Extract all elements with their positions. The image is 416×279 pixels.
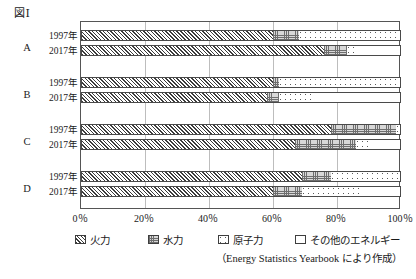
bar-row (81, 124, 401, 135)
bar-segment (273, 30, 299, 41)
bar-segment (356, 45, 401, 56)
x-axis-tick-label: 0％ (73, 210, 88, 225)
bar-segment (347, 45, 357, 56)
year-label: 2017年 (34, 43, 78, 57)
group-letter-a: A (20, 42, 34, 53)
bar-row (81, 45, 401, 56)
x-axis-tick-label: 80％ (326, 210, 346, 225)
bar-segment (324, 45, 346, 56)
bar-segment (81, 124, 331, 135)
year-label: 1997年 (34, 169, 78, 183)
bar-segment (299, 30, 401, 41)
x-axis-tick-label: 100％ (388, 210, 413, 225)
bar-segment (81, 171, 302, 182)
bar-segment (81, 77, 273, 88)
bar-segment (399, 124, 401, 135)
legend-label-hydro: 水力 (163, 232, 183, 247)
legend-label-thermal: 火力 (90, 232, 110, 247)
legend-swatch-thermal (75, 235, 86, 244)
figure-label: 図Ⅰ (14, 4, 30, 20)
figure-root: 図Ⅰ 1997年2017年1997年2017年1997年2017年1997年20… (0, 0, 416, 279)
y-axis-labels: 1997年2017年1997年2017年1997年2017年1997年2017年 (32, 21, 78, 209)
legend-item-hydro: 水力 (148, 232, 183, 247)
legend-item-nuclear: 原子力 (218, 232, 263, 247)
source-note: （Energy Statistics Yearbook により作成） (216, 250, 402, 265)
bar-segment (273, 186, 302, 197)
year-label: 1997年 (34, 122, 78, 136)
bar-row (81, 139, 401, 150)
legend-swatch-hydro (148, 235, 159, 244)
group-letter-c: C (20, 136, 34, 147)
legend-swatch-nuclear (218, 235, 229, 244)
group-letter-b: B (20, 89, 34, 100)
bar-row (81, 77, 401, 88)
chart-legend: 火力水力原子力その他のエネルギー (0, 232, 416, 252)
bar-row (81, 92, 401, 103)
bar-segment (356, 139, 372, 150)
legend-item-other: その他のエネルギー (295, 232, 400, 247)
year-label: 2017年 (34, 137, 78, 151)
x-axis-tick-label: 40％ (198, 210, 218, 225)
bar-segment (302, 171, 331, 182)
bar-segment (302, 186, 360, 197)
year-label: 2017年 (34, 90, 78, 104)
x-axis-tick-label: 60％ (262, 210, 282, 225)
bar-segment (81, 45, 324, 56)
legend-swatch-other (295, 235, 306, 244)
x-axis: 0％20％40％60％80％100％ (80, 210, 400, 226)
year-label: 1997年 (34, 75, 78, 89)
bar-segment (295, 139, 356, 150)
bar-segment (279, 92, 313, 103)
bar-segment (81, 30, 273, 41)
chart-plot-area (80, 21, 400, 209)
bar-segment (267, 92, 280, 103)
bar-segment (359, 186, 401, 197)
legend-label-nuclear: 原子力 (233, 232, 263, 247)
bar-segment (313, 92, 401, 103)
year-label: 2017年 (34, 184, 78, 198)
x-axis-tick-label: 20％ (134, 210, 154, 225)
legend-label-other: その他のエネルギー (310, 232, 400, 247)
group-letter-d: D (20, 183, 34, 194)
bar-segment (81, 139, 295, 150)
bar-row (81, 30, 401, 41)
bar-segment (81, 92, 267, 103)
bar-segment (372, 139, 401, 150)
year-label: 1997年 (34, 28, 78, 42)
bar-segment (331, 171, 401, 182)
bar-row (81, 171, 401, 182)
bar-segment (279, 77, 401, 88)
bar-segment (331, 124, 397, 135)
bar-row (81, 186, 401, 197)
bar-segment (81, 186, 273, 197)
legend-item-thermal: 火力 (75, 232, 110, 247)
